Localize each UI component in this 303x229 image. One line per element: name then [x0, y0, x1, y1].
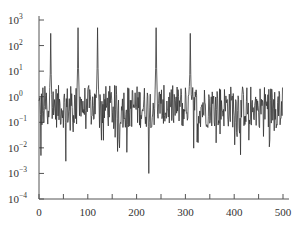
x-tick-label: 500: [275, 206, 292, 218]
y-tick-label: 10−2: [8, 140, 27, 154]
x-axis-ticks: 0100200300400500: [36, 194, 292, 218]
x-tick-label: 400: [226, 206, 243, 218]
y-tick-label: 101: [8, 63, 23, 77]
x-tick-label: 0: [36, 206, 42, 218]
y-tick-label: 100: [8, 89, 23, 103]
y-tick-label: 10−4: [8, 191, 27, 205]
x-tick-label: 100: [80, 206, 97, 218]
y-tick-label: 10−3: [8, 165, 27, 179]
spectrum-chart: 10310210110010−110−210−310−4 01002003004…: [0, 0, 303, 229]
y-tick-label: 102: [8, 38, 23, 52]
y-tick-label: 10−1: [8, 114, 27, 128]
data-series-line: [39, 28, 283, 174]
y-tick-label: 103: [8, 12, 23, 26]
x-tick-label: 300: [177, 206, 194, 218]
x-tick-label: 200: [128, 206, 145, 218]
